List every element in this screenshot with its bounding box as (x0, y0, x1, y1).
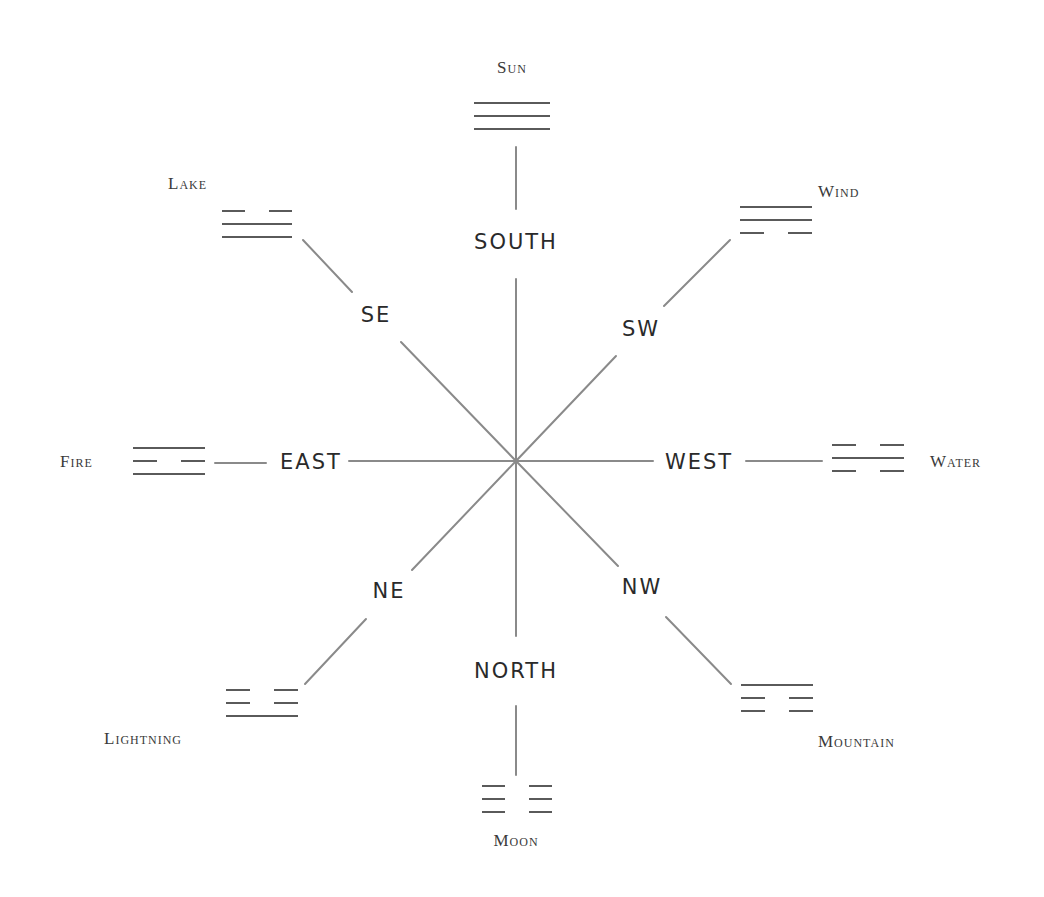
trigram-moon: Moon (482, 786, 552, 850)
trigram-label-wind: Wind (818, 182, 859, 201)
trigram-group: SunLakeWindFireWaterLightningMountainMoo… (60, 58, 981, 850)
trigram-label-sun: Sun (497, 58, 527, 77)
trigram-label-water: Water (930, 452, 981, 471)
trigram-lightning: Lightning (104, 690, 298, 748)
trigram-label-moon: Moon (493, 831, 538, 850)
direction-label-nw: NW (622, 575, 662, 599)
line-sw-upper (664, 240, 730, 306)
line-se-lower (401, 342, 516, 461)
line-se-upper (303, 240, 352, 292)
line-nw-lower (666, 617, 731, 684)
direction-label-south: SOUTH (474, 230, 558, 254)
line-nw-upper (516, 461, 618, 566)
direction-label-west: WEST (665, 450, 733, 474)
trigram-fire: Fire (60, 448, 205, 474)
direction-label-se: SE (361, 303, 392, 327)
trigram-label-fire: Fire (60, 452, 93, 471)
trigram-lake: Lake (168, 174, 292, 237)
line-ne-lower (305, 619, 366, 684)
direction-labels: SOUTHSESWEASTWESTNENWNORTH (280, 230, 733, 683)
direction-label-ne: NE (373, 579, 406, 603)
line-ne-upper (412, 461, 516, 570)
trigram-label-mountain: Mountain (818, 732, 895, 751)
line-sw-lower (516, 356, 616, 461)
direction-label-north: NORTH (474, 659, 558, 683)
trigram-sun: Sun (474, 58, 550, 129)
trigram-mountain: Mountain (741, 685, 895, 751)
trigram-water: Water (832, 445, 981, 471)
trigram-wind: Wind (740, 182, 859, 233)
direction-label-east: EAST (280, 450, 342, 474)
trigram-label-lake: Lake (168, 174, 207, 193)
bagua-compass-diagram: SunLakeWindFireWaterLightningMountainMoo… (0, 0, 1044, 897)
trigram-label-lightning: Lightning (104, 729, 182, 748)
direction-label-sw: SW (622, 317, 660, 341)
